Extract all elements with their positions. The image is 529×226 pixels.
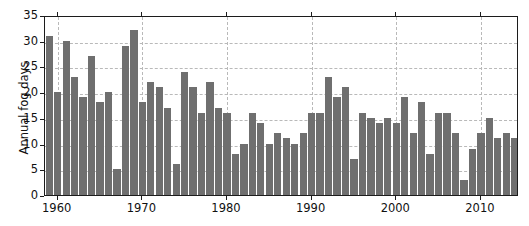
bar-1977: [198, 113, 205, 195]
bar-1984: [257, 123, 264, 195]
bar-2014: [511, 138, 518, 195]
clipped-caption-strip: [0, 0, 529, 9]
y-tick-mark-20: [40, 93, 44, 94]
x-tick-mark-top-1980: [226, 12, 227, 16]
x-tick-mark-top-1960: [57, 12, 58, 16]
x-tick-label-2010: 2010: [455, 201, 505, 215]
bar-1983: [249, 113, 256, 195]
x-tick-mark-1970: [141, 196, 142, 200]
gridline-y-25: [45, 68, 517, 69]
bar-1990: [308, 113, 315, 195]
bar-1968: [122, 46, 129, 195]
bar-1986: [274, 133, 281, 195]
x-tick-label-1970: 1970: [116, 201, 166, 215]
bar-1964: [88, 56, 95, 195]
bar-2012: [494, 138, 501, 195]
bar-1971: [147, 82, 154, 195]
x-tick-label-2000: 2000: [370, 201, 420, 215]
bar-1970: [139, 102, 146, 195]
bar-1961: [63, 41, 70, 195]
bar-1999: [384, 118, 391, 195]
x-tick-label-1990: 1990: [286, 201, 336, 215]
bar-2013: [503, 133, 510, 195]
bar-1992: [325, 77, 332, 195]
x-tick-mark-1960: [57, 196, 58, 200]
bar-1976: [189, 87, 196, 195]
y-tick-mark-5: [40, 170, 44, 171]
bar-2007: [452, 133, 459, 195]
plot-area: [44, 16, 518, 196]
x-tick-mark-top-2000: [395, 12, 396, 16]
bar-1981: [232, 154, 239, 195]
y-tick-mark-0: [40, 196, 44, 197]
bar-1960: [54, 92, 61, 195]
gridline-y-20: [45, 94, 517, 95]
y-tick-label-0: 0: [6, 188, 38, 202]
y-tick-label-10: 10: [6, 137, 38, 151]
bar-1978: [206, 82, 213, 195]
bar-1963: [79, 97, 86, 195]
x-tick-mark-2010: [480, 196, 481, 200]
bar-2009: [469, 149, 476, 195]
bar-2003: [418, 102, 425, 195]
bar-1972: [156, 87, 163, 195]
bar-1991: [316, 113, 323, 195]
bar-1969: [130, 30, 137, 195]
bar-1996: [359, 113, 366, 195]
y-tick-label-15: 15: [6, 111, 38, 125]
y-tick-label-5: 5: [6, 162, 38, 176]
x-tick-mark-1990: [311, 196, 312, 200]
x-tick-label-1960: 1960: [32, 201, 82, 215]
y-tick-mark-35: [40, 16, 44, 17]
bar-1985: [266, 144, 273, 195]
bar-1997: [367, 118, 374, 195]
bar-1973: [164, 108, 171, 195]
bar-2008: [460, 180, 467, 195]
bar-1987: [283, 138, 290, 195]
bar-1993: [333, 97, 340, 195]
bar-1965: [96, 102, 103, 195]
bar-2005: [435, 113, 442, 195]
y-tick-mark-15: [40, 119, 44, 120]
bar-1994: [342, 87, 349, 195]
bar-1959: [46, 36, 53, 195]
y-tick-mark-25: [40, 67, 44, 68]
bar-1966: [105, 92, 112, 195]
gridline-y-30: [45, 43, 517, 44]
bar-2011: [486, 118, 493, 195]
bar-1989: [300, 133, 307, 195]
x-tick-mark-2000: [395, 196, 396, 200]
bar-2010: [477, 133, 484, 195]
figure-container: Annual fog days 05101520253035 196019701…: [0, 0, 529, 226]
y-tick-label-25: 25: [6, 59, 38, 73]
y-tick-mark-10: [40, 145, 44, 146]
bar-1967: [113, 169, 120, 195]
bar-2006: [443, 113, 450, 195]
x-tick-label-1980: 1980: [201, 201, 251, 215]
bar-2000: [393, 123, 400, 195]
bar-2002: [410, 133, 417, 195]
bar-1962: [71, 77, 78, 195]
bar-1995: [350, 159, 357, 195]
x-tick-mark-top-2010: [480, 12, 481, 16]
bar-1975: [181, 72, 188, 195]
x-tick-mark-1980: [226, 196, 227, 200]
y-tick-mark-30: [40, 42, 44, 43]
bar-2001: [401, 97, 408, 195]
y-tick-label-35: 35: [6, 8, 38, 22]
bar-1982: [240, 144, 247, 195]
bar-1980: [223, 113, 230, 195]
x-tick-mark-top-1970: [141, 12, 142, 16]
bar-1974: [173, 164, 180, 195]
x-tick-mark-top-1990: [311, 12, 312, 16]
bar-2004: [426, 154, 433, 195]
bar-1988: [291, 144, 298, 195]
y-tick-label-30: 30: [6, 34, 38, 48]
bar-1998: [376, 123, 383, 195]
bar-1979: [215, 108, 222, 195]
y-tick-label-20: 20: [6, 85, 38, 99]
